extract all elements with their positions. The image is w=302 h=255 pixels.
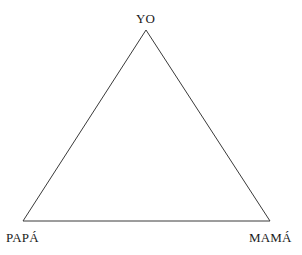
triangle-outline (23, 30, 270, 221)
triangle-diagram: YO PAPÁ MAMÁ (0, 0, 302, 255)
node-label-yo: YO (136, 12, 155, 25)
node-label-mama: MAMÁ (249, 231, 292, 244)
triangle-shape (0, 0, 302, 255)
node-label-papa: PAPÁ (6, 231, 39, 244)
